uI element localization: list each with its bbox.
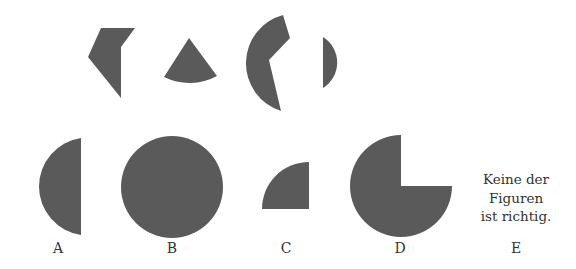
option-c-shape [262, 162, 309, 209]
option-d-shape [350, 135, 452, 237]
puzzle-canvas [0, 0, 576, 269]
option-d-label[interactable]: D [394, 240, 405, 256]
option-a-shape [39, 138, 81, 235]
option-e-text: Keine der Figuren ist richtig. [481, 170, 552, 226]
option-e-line-2: Figuren [481, 189, 552, 208]
option-c-label[interactable]: C [281, 240, 292, 256]
top-piece-sector [164, 38, 217, 83]
option-e-label[interactable]: E [511, 240, 521, 256]
top-piece-segment [323, 37, 337, 88]
option-e-line-1: Keine der [481, 170, 552, 189]
option-a-label[interactable]: A [53, 240, 63, 256]
option-b-label[interactable]: B [167, 240, 177, 256]
top-piece-polygon [88, 28, 135, 98]
option-e-line-3: ist richtig. [481, 207, 552, 226]
option-b-shape [121, 136, 223, 238]
top-piece-crescent [246, 15, 290, 111]
